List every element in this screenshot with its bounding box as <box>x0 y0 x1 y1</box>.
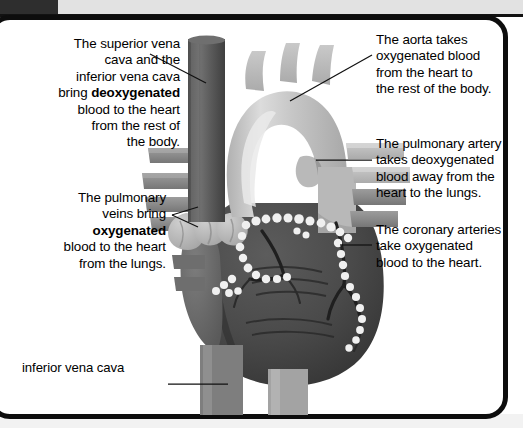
label-pulm-veins-line4: blood to the heart <box>64 239 166 254</box>
label-vena-cava-deoxygenated: deoxygenated <box>91 85 180 100</box>
label-pulm-veins-line2: veins bring <box>102 206 166 221</box>
label-aorta-line4: the rest of the body. <box>376 81 491 96</box>
label-vena-cava: The superior vena cava and the inferior … <box>14 36 180 151</box>
label-aorta-line2: oxygenated blood <box>376 48 480 63</box>
superior-vena-cava <box>188 36 225 222</box>
label-pulm-veins-oxygenated: oxygenated <box>93 223 166 238</box>
label-vena-cava-line7: the body. <box>127 134 180 149</box>
label-vena-cava-line3: inferior vena cava <box>76 69 180 84</box>
scan-dark-block <box>0 0 58 14</box>
label-ivc-text: inferior vena cava <box>22 360 124 375</box>
label-vena-cava-line4-pre: bring <box>58 85 91 100</box>
label-coronary-arteries: The coronary arteries take oxygenated bl… <box>376 222 518 271</box>
label-pulm-artery-line3: blood away from the <box>376 169 495 184</box>
label-pulm-artery-line1: The pulmonary artery <box>376 136 501 151</box>
label-coronary-line3: blood to the heart. <box>376 255 482 270</box>
label-vena-cava-line5: blood to the heart <box>78 102 180 117</box>
label-vena-cava-line1: The superior vena <box>74 36 180 51</box>
label-pulm-veins-line1: The pulmonary <box>78 190 166 205</box>
label-aorta: The aorta takes oxygenated blood from th… <box>376 32 518 98</box>
label-pulm-veins-line5: from the lungs. <box>79 256 166 271</box>
page-root: The superior vena cava and the inferior … <box>0 0 523 428</box>
label-coronary-line2: take oxygenated <box>376 238 473 253</box>
label-pulm-artery-line2: takes deoxygenated <box>376 152 494 167</box>
label-inferior-vena-cava: inferior vena cava <box>22 360 167 376</box>
label-aorta-line1: The aorta takes <box>376 32 468 47</box>
label-pulmonary-veins: The pulmonary veins bring oxygenated blo… <box>14 190 166 272</box>
label-pulm-artery-line4: heart to the lungs. <box>376 185 481 200</box>
label-vena-cava-line6: from the rest of <box>92 118 180 133</box>
label-pulmonary-artery: The pulmonary artery takes deoxygenated … <box>376 136 518 202</box>
label-coronary-line1: The coronary arteries <box>376 222 501 237</box>
label-aorta-line3: from the heart to <box>376 65 473 80</box>
scan-strip-top <box>0 0 523 14</box>
inferior-vena-cava <box>200 345 243 415</box>
label-vena-cava-line2: cava and the <box>105 52 180 67</box>
descending-aorta <box>268 369 308 415</box>
